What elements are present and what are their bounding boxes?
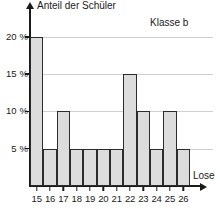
bar-cell	[163, 22, 176, 186]
x-tick-label: 16	[43, 193, 56, 204]
bar-cell	[177, 22, 190, 186]
x-tick-mark	[70, 186, 83, 191]
x-tick-mark	[43, 186, 56, 191]
bar-cell	[70, 22, 83, 186]
x-axis-ticks	[30, 186, 190, 191]
bar-cell	[57, 22, 70, 186]
bar-cell	[123, 22, 136, 186]
y-tick-label: 5 %	[11, 143, 28, 154]
bar	[30, 37, 43, 186]
x-tick-label: 17	[57, 193, 70, 204]
bar	[177, 149, 190, 186]
bar	[57, 111, 70, 186]
x-tick-label: 22	[123, 193, 136, 204]
y-tick-label: 20 %	[6, 31, 28, 42]
x-tick-label: 15	[30, 193, 43, 204]
x-tick-mark	[110, 186, 123, 191]
y-axis-title: Anteil der Schüler	[37, 0, 116, 11]
x-tick-mark	[30, 186, 43, 191]
x-tick-mark	[97, 186, 110, 191]
x-tick-mark	[57, 186, 70, 191]
x-tick-label: 24	[150, 193, 163, 204]
x-axis-title: Lose	[193, 170, 215, 181]
x-tick-mark	[123, 186, 136, 191]
bar-cell	[30, 22, 43, 186]
x-tick-mark	[163, 186, 176, 191]
bar	[70, 149, 83, 186]
x-axis-labels: 151617181920212223242526	[30, 193, 190, 204]
y-axis-arrow-icon	[26, 2, 34, 9]
bar-cell	[110, 22, 123, 186]
bar-cell	[150, 22, 163, 186]
x-tick-label: 23	[137, 193, 150, 204]
y-tick-label: 10 %	[6, 105, 28, 116]
bar	[83, 149, 96, 186]
x-tick-label: 18	[70, 193, 83, 204]
x-axis-arrow-icon	[200, 183, 207, 191]
x-tick-label: 25	[163, 193, 176, 204]
x-tick-label: 26	[177, 193, 190, 204]
x-tick-mark	[83, 186, 96, 191]
y-tick-label: 15 %	[6, 68, 28, 79]
bar	[150, 149, 163, 186]
x-tick-label: 19	[83, 193, 96, 204]
x-tick-label: 20	[97, 193, 110, 204]
x-tick-mark	[150, 186, 163, 191]
bar	[123, 74, 136, 186]
bar	[137, 111, 150, 186]
x-tick-label: 21	[110, 193, 123, 204]
bar-cell	[137, 22, 150, 186]
bar-chart: Anteil der Schüler Klasse b 5 %10 %15 %2…	[0, 0, 220, 209]
bar-cell	[97, 22, 110, 186]
bar	[163, 111, 176, 186]
bar-cell	[83, 22, 96, 186]
bar	[97, 149, 110, 186]
bar	[43, 149, 56, 186]
x-tick-mark	[177, 186, 190, 191]
bar-cell	[43, 22, 56, 186]
bar-series	[30, 22, 190, 186]
bar	[110, 149, 123, 186]
x-tick-mark	[137, 186, 150, 191]
